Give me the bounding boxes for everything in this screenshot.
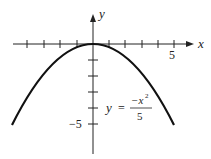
y-tick-label-minus-5: −5 <box>69 117 82 131</box>
svg-text:5: 5 <box>137 110 143 122</box>
y-axis-arrow-icon <box>90 14 96 22</box>
x-axis-label: x <box>197 36 204 51</box>
svg-text:y: y <box>104 100 112 115</box>
svg-text:−x: −x <box>131 94 143 106</box>
x-axis-arrow-icon <box>186 41 194 47</box>
equation-label: y = −x 2 5 <box>104 92 152 122</box>
x-tick-label-5: 5 <box>169 48 175 62</box>
svg-text:=: = <box>118 101 125 115</box>
y-axis-label: y <box>97 6 105 21</box>
chart-canvas: y x 5 −5 y = −x 2 5 <box>0 0 211 159</box>
svg-text:2: 2 <box>145 92 149 100</box>
